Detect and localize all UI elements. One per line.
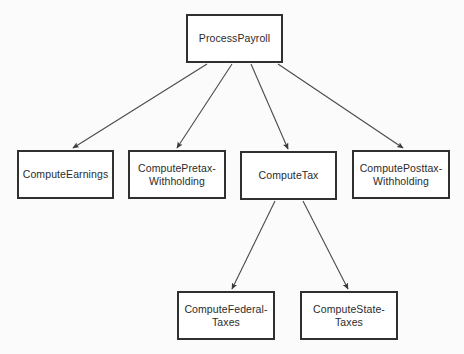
- edge-process-payroll-to-compute-pretax: [177, 64, 232, 148]
- node-compute-earnings[interactable]: ComputeEarnings: [17, 150, 114, 199]
- node-label-compute-pretax: ComputePretax- Withholding: [135, 162, 219, 188]
- edge-process-payroll-to-compute-tax: [251, 64, 288, 149]
- node-label-compute-tax: ComputeTax: [256, 169, 322, 182]
- node-label-process-payroll: ProcessPayroll: [196, 32, 273, 45]
- node-compute-posttax[interactable]: ComputePosttax- Withholding: [352, 150, 450, 199]
- node-label-compute-posttax: ComputePosttax- Withholding: [357, 162, 446, 188]
- edge-compute-tax-to-compute-federal-taxes: [232, 201, 275, 289]
- node-compute-tax[interactable]: ComputeTax: [240, 151, 337, 200]
- node-compute-pretax[interactable]: ComputePretax- Withholding: [128, 150, 226, 199]
- edge-process-payroll-to-compute-posttax: [278, 64, 403, 148]
- node-label-compute-federal-taxes: ComputeFederal- Taxes: [181, 303, 270, 329]
- node-label-compute-earnings: ComputeEarnings: [20, 168, 112, 181]
- node-label-compute-state-taxes: ComputeState- Taxes: [310, 303, 388, 329]
- edge-process-payroll-to-compute-earnings: [73, 64, 207, 148]
- node-process-payroll[interactable]: ProcessPayroll: [186, 14, 283, 63]
- edge-compute-tax-to-compute-state-taxes: [303, 201, 348, 289]
- node-compute-federal-taxes[interactable]: ComputeFederal- Taxes: [177, 291, 275, 340]
- call-hierarchy-diagram: ProcessPayrollComputeEarningsComputePret…: [0, 0, 464, 354]
- node-compute-state-taxes[interactable]: ComputeState- Taxes: [300, 291, 398, 340]
